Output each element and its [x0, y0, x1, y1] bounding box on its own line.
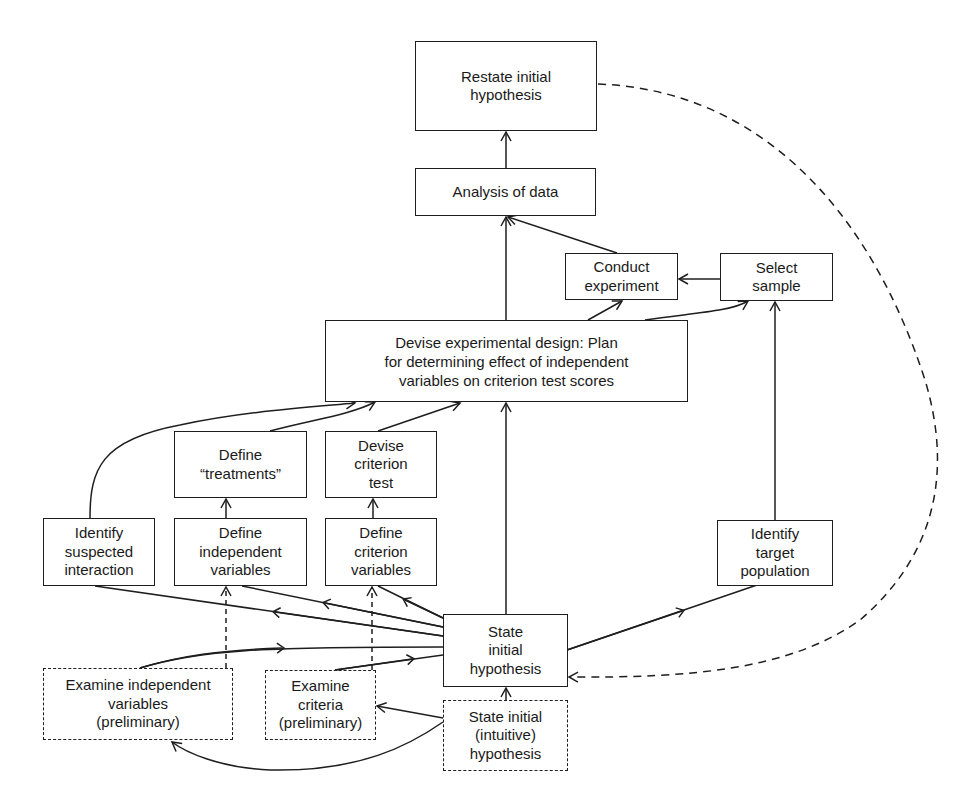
node-label: Analysis of data [453, 183, 559, 202]
node-label: Define independent variables [199, 524, 282, 580]
edge-test-to-design [378, 403, 460, 431]
node-label: Identify suspected interaction [64, 524, 133, 580]
edge-design-to-select [645, 301, 748, 320]
edge-design-to-conduct [588, 301, 622, 320]
node-define-independent-variables: Define independent variables [174, 518, 307, 586]
node-devise-criterion-test: Devise criterion test [325, 431, 437, 498]
edge-state-to-criterion-arrow [405, 600, 443, 618]
node-label: Define criterion variables [351, 524, 411, 580]
edge-intuitive-to-examine-criteria [377, 706, 443, 718]
node-state-initial-hypothesis: State initial hypothesis [443, 614, 568, 687]
edge-state-to-independent-arrow [325, 603, 443, 627]
diagram-canvas: Restate initial hypothesis Analysis of d… [0, 0, 969, 807]
edge-conduct-to-analysis [508, 217, 617, 253]
node-conduct-experiment: Conduct experiment [565, 253, 678, 300]
node-examine-independent-variables: Examine independent variables (prelimina… [43, 668, 233, 740]
node-identify-suspected-interaction: Identify suspected interaction [43, 518, 155, 586]
node-label: Define “treatments” [200, 446, 281, 483]
node-label: Select sample [752, 259, 800, 296]
node-examine-criteria: Examine criteria (preliminary) [265, 670, 376, 740]
node-label: Devise criterion test [354, 437, 407, 493]
node-label: State initial (intuitive) hypothesis [469, 708, 542, 764]
edge-examine-criteria-to-state-arrow [335, 659, 412, 670]
node-label: Identify target population [740, 525, 809, 581]
node-label: State initial hypothesis [470, 623, 542, 679]
node-restate-hypothesis: Restate initial hypothesis [415, 41, 597, 131]
node-label: Restate initial hypothesis [461, 68, 551, 105]
edge-examine-independent-to-state-arrow [140, 648, 282, 668]
node-label: Examine independent variables (prelimina… [65, 676, 210, 732]
edge-state-to-interaction-arrow [275, 612, 443, 636]
node-define-treatments: Define “treatments” [174, 431, 307, 498]
node-identify-target-population: Identify target population [717, 520, 833, 586]
node-label: Examine criteria (preliminary) [279, 677, 362, 733]
node-state-intuitive-hypothesis: State initial (intuitive) hypothesis [443, 700, 568, 771]
node-analysis-of-data: Analysis of data [415, 168, 596, 216]
node-select-sample: Select sample [720, 253, 833, 301]
node-label: Devise experimental design: Plan for det… [384, 333, 628, 390]
node-label: Conduct experiment [584, 258, 658, 295]
node-define-criterion-variables: Define criterion variables [325, 518, 437, 586]
node-devise-experimental-design: Devise experimental design: Plan for det… [325, 320, 688, 402]
edge-state-to-population-arrow [567, 611, 682, 650]
